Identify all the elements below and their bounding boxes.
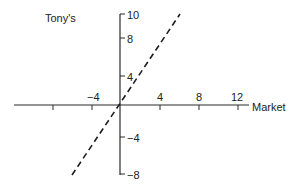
x-tick-label-12: 12	[231, 91, 243, 103]
x-tick-label-8: 8	[196, 91, 202, 103]
y-tick-label-10: 10	[127, 9, 139, 21]
y-tick-label-neg8: −8	[127, 169, 140, 181]
y-axis-title: Tony's	[45, 12, 76, 24]
x-axis-title: Market	[252, 101, 286, 113]
y-tick-label-4: 4	[127, 71, 133, 83]
y-tick-label-8: 8	[127, 33, 133, 45]
chart: 10 8 4 −4 −8 −4 4 8 12 Tony's Market	[0, 0, 299, 188]
x-tick-label-4: 4	[157, 91, 163, 103]
y-tick-label-neg4: −4	[127, 132, 140, 144]
x-tick-label-neg4: −4	[87, 91, 100, 103]
